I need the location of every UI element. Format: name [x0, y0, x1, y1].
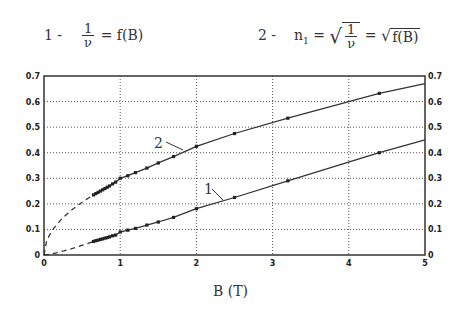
- y-tick-label-right: 0.3: [428, 174, 442, 183]
- curve-labels: 2 1: [154, 135, 223, 200]
- data-point: [108, 184, 111, 187]
- leader-line-1: [212, 189, 223, 200]
- y-tick-label-left: 0.3: [26, 174, 40, 183]
- y-tick-label-right: 0.6: [428, 98, 443, 107]
- data-point: [157, 220, 160, 223]
- data-point: [114, 233, 117, 236]
- y-axis-left: 00.10.20.30.40.50.60.7: [26, 72, 41, 260]
- series-1: [44, 140, 425, 255]
- y-axis-right: 00.10.20.30.40.50.60.7: [428, 72, 443, 260]
- data-point: [114, 181, 117, 184]
- data-point: [111, 234, 114, 237]
- data-point: [134, 171, 137, 174]
- data-point: [119, 177, 122, 180]
- data-point: [111, 182, 114, 185]
- y-tick-label-left: 0.4: [26, 149, 41, 158]
- data-point: [172, 155, 175, 158]
- data-point: [378, 92, 381, 95]
- data-point: [195, 207, 198, 210]
- curve-label-2: 2: [154, 135, 163, 151]
- data-point: [172, 216, 175, 219]
- y-tick-label-right: 0.4: [428, 149, 443, 158]
- y-tick-label-left: 0.7: [26, 72, 40, 81]
- data-point: [134, 227, 137, 230]
- data-point: [119, 230, 122, 233]
- data-point: [286, 179, 289, 182]
- x-tick-label: 4: [346, 259, 352, 268]
- extrapolation-line: [44, 241, 94, 255]
- data-point: [233, 196, 236, 199]
- y-tick-label-left: 0: [34, 251, 40, 260]
- data-point: [108, 235, 111, 238]
- y-tick-label-left: 0.2: [26, 200, 40, 209]
- fit-line: [94, 140, 426, 242]
- chart: 00.10.20.30.40.50.60.7 00.10.20.30.40.50…: [0, 0, 456, 310]
- y-tick-label-left: 0.6: [26, 98, 41, 107]
- data-point: [157, 161, 160, 164]
- x-tick-label: 1: [117, 259, 123, 268]
- data-point: [145, 166, 148, 169]
- y-tick-label-right: 0.2: [428, 200, 442, 209]
- data-point: [286, 117, 289, 120]
- grid: [44, 76, 425, 255]
- curve-label-1: 1: [204, 181, 213, 197]
- y-tick-label-right: 0: [428, 251, 434, 260]
- leader-line-2: [166, 142, 183, 150]
- y-tick-label-right: 0.1: [428, 225, 443, 234]
- y-tick-label-left: 0.5: [26, 123, 41, 132]
- data-point: [126, 229, 129, 232]
- y-tick-label-left: 0.1: [26, 225, 41, 234]
- x-axis: 012345: [41, 259, 428, 268]
- y-tick-label-right: 0.7: [428, 72, 442, 81]
- data-point: [233, 132, 236, 135]
- plot-frame: [44, 76, 425, 255]
- y-tick-label-right: 0.5: [428, 123, 443, 132]
- x-tick-label: 2: [194, 259, 200, 268]
- data-point: [378, 151, 381, 154]
- x-tick-label: 0: [41, 259, 47, 268]
- x-tick-label: 3: [270, 259, 276, 268]
- x-tick-label: 5: [422, 259, 428, 268]
- x-axis-title: B (T): [213, 283, 248, 299]
- data-point: [145, 223, 148, 226]
- data-point: [126, 174, 129, 177]
- data-point: [195, 145, 198, 148]
